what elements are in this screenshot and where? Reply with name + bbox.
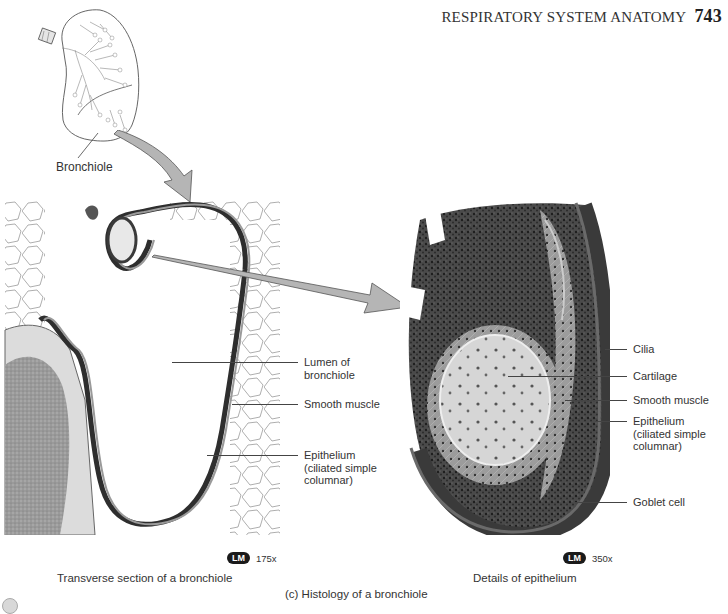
lm-badge: LM <box>227 552 250 564</box>
epithelium-label-left: Epithelium (ciliated simple columnar) <box>304 449 377 487</box>
figure-caption: (c) Histology of a bronchiole <box>285 588 428 600</box>
smooth-muscle-label-right: Smooth muscle <box>633 394 709 407</box>
running-head: RESPIRATORY SYSTEM ANATOMY743 <box>441 6 722 27</box>
curved-arrow-icon <box>100 130 220 210</box>
epithelium-leader-left <box>207 455 298 456</box>
smooth-muscle-label-left: Smooth muscle <box>304 398 380 411</box>
right-caption: Details of epithelium <box>473 572 577 584</box>
smooth-muscle-leader-right <box>565 400 627 401</box>
epithelium-detail-micrograph <box>400 200 610 535</box>
running-title: RESPIRATORY SYSTEM ANATOMY <box>441 9 686 25</box>
epithelium-leader-right <box>595 421 627 422</box>
lumen-leader <box>172 362 298 363</box>
corner-icon <box>2 598 18 614</box>
cilia-leader <box>605 349 627 350</box>
cilia-label: Cilia <box>633 343 654 356</box>
goblet-cell-leader <box>575 502 627 503</box>
smooth-muscle-leader-left <box>232 404 298 405</box>
cartilage-leader <box>508 376 627 377</box>
page-number: 743 <box>694 6 722 26</box>
magnification-right: LM 350x <box>563 552 613 564</box>
magnification-value: 175x <box>256 553 277 564</box>
epithelium-label-right: Epithelium (ciliated simple columnar) <box>633 415 706 453</box>
cartilage-label: Cartilage <box>633 370 677 383</box>
lm-badge: LM <box>563 552 586 564</box>
lumen-label: Lumen of bronchiole <box>304 356 355 381</box>
goblet-cell-label: Goblet cell <box>633 496 685 509</box>
left-caption: Transverse section of a bronchiole <box>57 572 232 584</box>
pointer-arrow-icon <box>150 245 410 325</box>
magnification-value: 350x <box>592 553 613 564</box>
magnification-left: LM 175x <box>227 552 277 564</box>
